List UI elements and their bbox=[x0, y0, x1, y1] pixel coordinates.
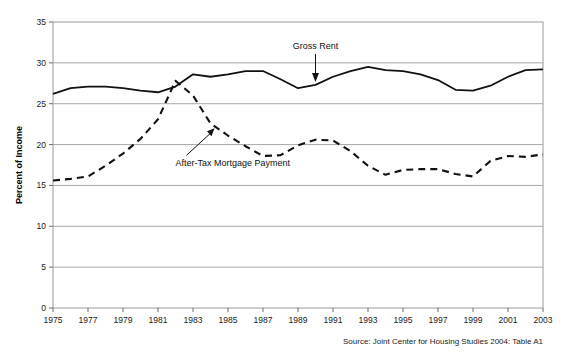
x-tick-label: 1999 bbox=[464, 315, 483, 325]
x-tick-label: 1993 bbox=[359, 315, 378, 325]
y-tick-label: 15 bbox=[37, 180, 47, 190]
annotation-label-after-tax-mortgage-payment: After-Tax Mortgage Payment bbox=[176, 158, 291, 168]
annotation-label-gross-rent: Gross Rent bbox=[293, 41, 339, 51]
y-tick-label: 25 bbox=[37, 99, 47, 109]
y-tick-label: 30 bbox=[37, 58, 47, 68]
y-tick-label: 35 bbox=[37, 17, 47, 27]
x-tick-label: 1977 bbox=[79, 315, 98, 325]
x-tick-label: 1987 bbox=[254, 315, 273, 325]
y-tick-label: 20 bbox=[37, 140, 47, 150]
x-tick-label: 1991 bbox=[324, 315, 343, 325]
y-axis-title: Percent of Income bbox=[14, 126, 24, 204]
x-tick-label: 1983 bbox=[184, 315, 203, 325]
chart-container: 05101520253035 1975197719791981198319851… bbox=[0, 0, 566, 357]
x-tick-label: 1975 bbox=[44, 315, 63, 325]
y-tick-label: 5 bbox=[41, 262, 46, 272]
y-tick-label: 0 bbox=[41, 303, 46, 313]
line-chart: 05101520253035 1975197719791981198319851… bbox=[0, 0, 566, 357]
x-tick-label: 1985 bbox=[219, 315, 238, 325]
x-tick-label: 2001 bbox=[499, 315, 518, 325]
x-tick-label: 2003 bbox=[534, 315, 553, 325]
x-tick-label: 1979 bbox=[114, 315, 133, 325]
y-tick-label: 10 bbox=[37, 221, 47, 231]
x-tick-label: 1981 bbox=[149, 315, 168, 325]
chart-background bbox=[0, 0, 566, 357]
source-note: Source: Joint Center for Housing Studies… bbox=[343, 337, 544, 346]
x-tick-label: 1997 bbox=[429, 315, 448, 325]
x-tick-label: 1989 bbox=[289, 315, 308, 325]
x-tick-label: 1995 bbox=[394, 315, 413, 325]
